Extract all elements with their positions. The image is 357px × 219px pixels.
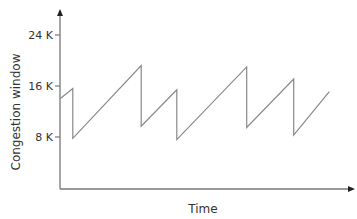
- congestion-window-chart: 8 K16 K24 K Time Congestion window: [0, 0, 357, 219]
- y-ticks: 8 K16 K24 K: [28, 29, 60, 144]
- x-axis-title: Time: [187, 202, 217, 216]
- y-tick-label: 24 K: [28, 29, 53, 42]
- y-axis-arrow-icon: [57, 9, 63, 16]
- y-tick-label: 8 K: [35, 131, 53, 144]
- y-axis-title: Congestion window: [9, 53, 23, 170]
- y-tick-label: 16 K: [28, 80, 53, 93]
- x-axis-arrow-icon: [348, 186, 355, 192]
- congestion-window-line: [60, 66, 329, 140]
